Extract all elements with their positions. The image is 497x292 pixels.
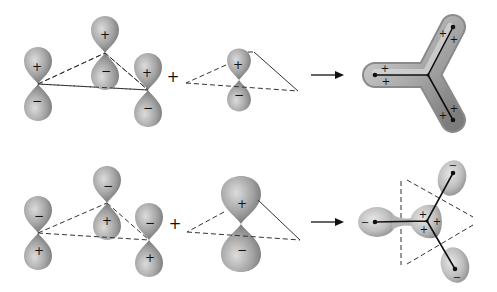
sign-upper: +	[32, 60, 42, 74]
sign: +	[381, 63, 389, 74]
bottom-arrow	[311, 218, 344, 226]
sign-lower: +	[34, 244, 44, 258]
sign-upper: −	[145, 216, 155, 230]
top-product-y-orbital: + + + + + +	[373, 25, 458, 123]
sign: −	[453, 272, 461, 283]
sign-upper: +	[142, 66, 152, 80]
sign-upper: +	[100, 28, 110, 42]
bottom-orbital-3: − +	[135, 203, 163, 277]
sign-upper: −	[103, 179, 113, 193]
sign-lower: +	[145, 251, 155, 265]
bottom-center-orbital: + −	[187, 176, 300, 272]
sign-lower: −	[101, 64, 111, 78]
sign: +	[420, 224, 428, 235]
top-row: + − + − + − + + −	[24, 16, 458, 127]
sign-lower: −	[143, 101, 153, 115]
sign-upper: +	[237, 197, 247, 211]
sign-lower: −	[237, 243, 247, 257]
sign: +	[433, 216, 441, 227]
bottom-row: − + − + − + + + −	[24, 157, 473, 286]
sign: +	[439, 110, 447, 121]
sign: −	[449, 160, 457, 171]
sign-upper: +	[233, 58, 243, 72]
sign: +	[419, 209, 427, 220]
sign-lower: +	[102, 214, 112, 228]
plus-operator: +	[167, 68, 180, 86]
top-center-orbital: + −	[186, 49, 298, 112]
sign-upper: −	[34, 209, 44, 223]
plus-operator: +	[169, 215, 182, 233]
sign-lower: −	[32, 94, 42, 108]
sign-lower: −	[234, 88, 244, 102]
top-arrow	[311, 71, 344, 79]
sign: +	[382, 76, 390, 87]
sign: +	[450, 34, 458, 45]
sign: +	[450, 103, 458, 114]
sign: −	[361, 217, 369, 228]
bottom-product-trigonal-orbital: − − − + + +	[358, 157, 473, 286]
diagram-canvas: + − + − + − + + −	[0, 0, 497, 292]
sign: +	[439, 28, 447, 39]
